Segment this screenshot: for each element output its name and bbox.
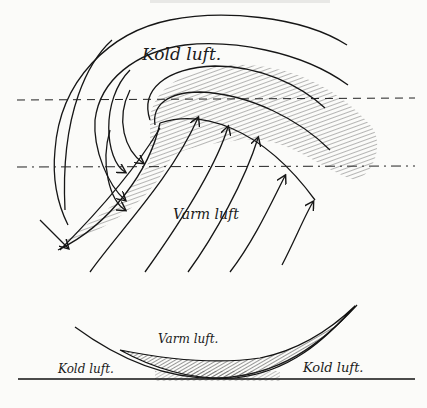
cold-arrow bbox=[64, 40, 112, 210]
warm-arrow bbox=[282, 202, 313, 265]
label-cold-air-right: Kold luft. bbox=[302, 360, 364, 375]
cyclone-diagram: Kold luft. Varm luft Varm luft. Kold luf… bbox=[0, 0, 427, 408]
cold-arrow bbox=[40, 220, 68, 248]
cold-arrow bbox=[123, 90, 143, 163]
label-cold-air: Kold luft. bbox=[141, 44, 221, 64]
cold-arrow bbox=[109, 70, 130, 172]
cropped-caption bbox=[150, 0, 330, 3]
label-warm-air: Varm luft bbox=[173, 206, 239, 222]
warm-arrow bbox=[188, 138, 258, 272]
warm-arrow bbox=[230, 176, 285, 272]
label-warm-air-section: Varm luft. bbox=[158, 332, 218, 346]
label-cold-air-left: Kold luft. bbox=[57, 362, 114, 376]
